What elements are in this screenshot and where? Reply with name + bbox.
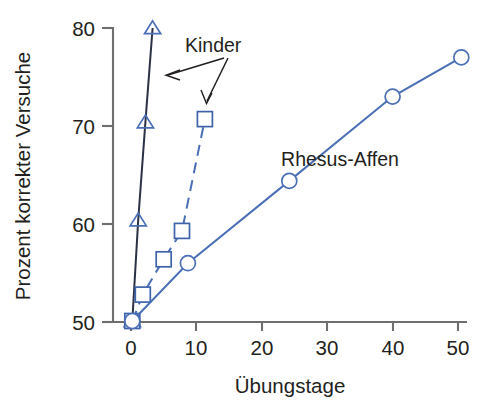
kinder-label: Kinder — [185, 34, 242, 56]
kinder-arrowhead-square — [201, 90, 212, 104]
x-tick-label: 50 — [447, 336, 470, 359]
square-marker — [197, 112, 212, 127]
circle-marker — [282, 173, 297, 188]
x-axis-tick-labels: 0 10 20 30 40 50 — [125, 336, 469, 359]
y-axis-title: Prozent korrekter Versuche — [11, 52, 34, 300]
series-line-circle — [132, 57, 461, 321]
rhesus-affen-label: Rhesus-Affen — [281, 148, 399, 170]
square-marker — [156, 252, 171, 267]
y-tick-label: 60 — [72, 213, 95, 236]
circle-marker — [125, 314, 140, 329]
y-tick-label: 80 — [72, 17, 95, 40]
triangle-marker — [137, 115, 153, 128]
square-marker — [135, 287, 150, 302]
triangle-marker — [145, 21, 161, 34]
y-tick-label: 50 — [72, 311, 95, 334]
data-series-layer — [124, 21, 469, 329]
circle-marker — [385, 89, 400, 104]
annotation-kinder: Kinder — [166, 34, 242, 104]
square-marker — [175, 223, 190, 238]
chart-canvas: Prozent korrekter Versuche 80 70 60 50 — [0, 0, 495, 406]
circle-marker — [454, 50, 469, 65]
series-triangle — [124, 21, 161, 327]
y-axis-ticks — [102, 28, 113, 322]
circle-marker — [180, 256, 195, 271]
y-axis-tick-labels: 80 70 60 50 — [72, 17, 95, 334]
x-tick-label: 40 — [382, 336, 405, 359]
x-axis-title: Übungstage — [235, 374, 346, 397]
x-axis-ticks — [131, 322, 458, 331]
series-line-triangle — [132, 28, 152, 321]
y-tick-label: 70 — [72, 115, 95, 138]
chart-figure: Prozent korrekter Versuche 80 70 60 50 — [0, 0, 495, 406]
x-tick-label: 30 — [316, 336, 339, 359]
kinder-arrowhead-triangle — [166, 70, 180, 80]
triangle-marker — [130, 213, 146, 226]
x-tick-label: 0 — [125, 336, 136, 359]
x-tick-label: 20 — [251, 336, 274, 359]
x-tick-label: 10 — [185, 336, 208, 359]
kinder-arrow-square — [207, 58, 228, 101]
kinder-arrow-triangle — [168, 58, 224, 75]
series-circle — [125, 50, 469, 329]
